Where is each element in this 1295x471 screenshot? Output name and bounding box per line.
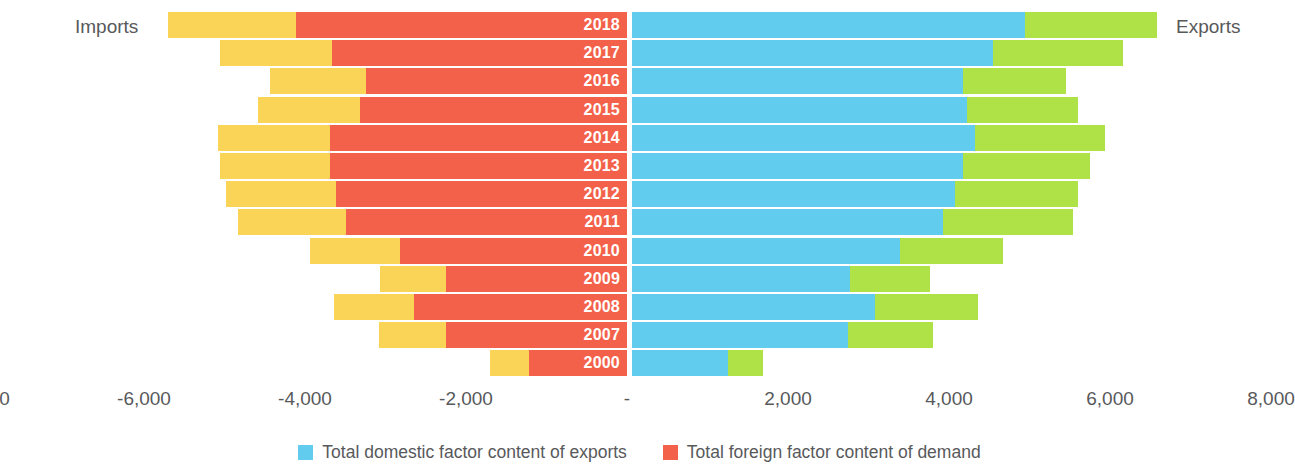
bar-segment-foreign-factor-content-of-exports — [728, 350, 763, 376]
bar-segment-domestic-factor-content-of-imports — [334, 294, 414, 320]
bar-segment-domestic-factor-content-of-imports — [379, 322, 446, 348]
bar-row-year-label: 2018 — [296, 12, 627, 38]
plot-area: 2018201720162015201420132012201120102009… — [0, 0, 1279, 382]
bar-row: 2000 — [0, 350, 1279, 376]
bar-segment-foreign-factor-content-of-exports — [967, 97, 1078, 123]
bar-segment-total-domestic-factor-content-of-exports — [632, 266, 850, 292]
bar-segment-domestic-factor-content-of-imports — [168, 12, 296, 38]
x-axis-tick-label: -2,000 — [439, 388, 493, 410]
bar-row-year-label: 2012 — [336, 181, 627, 207]
x-axis-tick-label: -4,000 — [278, 388, 332, 410]
bar-segment-total-domestic-factor-content-of-exports — [632, 12, 1025, 38]
bar-segment-total-domestic-factor-content-of-exports — [632, 209, 943, 235]
bar-segment-foreign-factor-content-of-exports — [848, 322, 933, 348]
bar-row: 2016 — [0, 68, 1279, 94]
bar-row-year-label: 2010 — [400, 238, 627, 264]
bar-segment-domestic-factor-content-of-imports — [490, 350, 529, 376]
bar-row: 2017 — [0, 40, 1279, 66]
bar-segment-domestic-factor-content-of-imports — [310, 238, 400, 264]
x-axis-tick-label: -8,000 — [0, 388, 10, 410]
bar-segment-total-domestic-factor-content-of-exports — [632, 153, 963, 179]
bar-row: 2011 — [0, 209, 1279, 235]
x-axis: -8,000-6,000-4,000-2,000-2,0004,0006,000… — [0, 388, 1279, 422]
bar-segment-total-domestic-factor-content-of-exports — [632, 181, 955, 207]
legend-label: Total domestic factor content of exports — [322, 442, 626, 463]
bar-segment-domestic-factor-content-of-imports — [270, 68, 366, 94]
bar-segment-total-domestic-factor-content-of-exports — [632, 40, 993, 66]
bar-segment-foreign-factor-content-of-exports — [943, 209, 1073, 235]
bar-row-year-label: 2013 — [330, 153, 627, 179]
x-axis-tick-label: -6,000 — [117, 388, 171, 410]
x-axis-tick-label: 2,000 — [764, 388, 812, 410]
bar-segment-total-domestic-factor-content-of-exports — [632, 97, 967, 123]
bar-row-year-label: 2008 — [414, 294, 627, 320]
bar-row: 2010 — [0, 238, 1279, 264]
bar-segment-total-domestic-factor-content-of-exports — [632, 294, 875, 320]
bar-segment-total-domestic-factor-content-of-exports — [632, 238, 900, 264]
bar-row-year-label: 2015 — [360, 97, 627, 123]
legend-label: Total foreign factor content of demand — [687, 442, 981, 463]
bar-segment-total-domestic-factor-content-of-exports — [632, 322, 848, 348]
bar-segment-foreign-factor-content-of-exports — [975, 125, 1105, 151]
bar-row-year-label: 2000 — [529, 350, 627, 376]
bar-row: 2008 — [0, 294, 1279, 320]
bar-segment-foreign-factor-content-of-exports — [850, 266, 930, 292]
legend-swatch-icon — [298, 445, 313, 460]
bar-segment-total-domestic-factor-content-of-exports — [632, 125, 975, 151]
bar-segment-domestic-factor-content-of-imports — [380, 266, 446, 292]
legend-item: Total domestic factor content of exports — [298, 442, 626, 463]
bar-segment-foreign-factor-content-of-exports — [900, 238, 1003, 264]
bar-segment-domestic-factor-content-of-imports — [220, 153, 330, 179]
bar-segment-foreign-factor-content-of-exports — [875, 294, 978, 320]
bar-segment-domestic-factor-content-of-imports — [226, 181, 336, 207]
bar-segment-total-domestic-factor-content-of-exports — [632, 68, 963, 94]
bar-row: 2014 — [0, 125, 1279, 151]
x-axis-tick-label: 8,000 — [1247, 388, 1295, 410]
bar-segment-domestic-factor-content-of-imports — [238, 209, 346, 235]
bar-row-year-label: 2017 — [332, 40, 627, 66]
x-axis-tick-label: 4,000 — [925, 388, 973, 410]
bar-segment-domestic-factor-content-of-imports — [258, 97, 360, 123]
bar-row-year-label: 2016 — [366, 68, 627, 94]
bar-segment-foreign-factor-content-of-exports — [1025, 12, 1157, 38]
legend-item: Total foreign factor content of demand — [663, 442, 981, 463]
bar-row-year-label: 2009 — [446, 266, 627, 292]
bar-row-year-label: 2011 — [346, 209, 627, 235]
chart-legend: Total domestic factor content of exports… — [0, 438, 1279, 466]
bar-row-year-label: 2007 — [446, 322, 627, 348]
x-axis-tick-label: 6,000 — [1086, 388, 1134, 410]
bar-segment-foreign-factor-content-of-exports — [955, 181, 1078, 207]
bar-row: 2009 — [0, 266, 1279, 292]
bar-segment-domestic-factor-content-of-imports — [220, 40, 332, 66]
bar-segment-domestic-factor-content-of-imports — [218, 125, 330, 151]
bar-segment-foreign-factor-content-of-exports — [963, 153, 1090, 179]
bar-row: 2007 — [0, 322, 1279, 348]
bar-segment-total-domestic-factor-content-of-exports — [632, 350, 728, 376]
bar-row: 2015 — [0, 97, 1279, 123]
x-axis-tick-label: - — [624, 388, 630, 410]
bar-row-year-label: 2014 — [330, 125, 627, 151]
legend-swatch-icon — [663, 445, 678, 460]
bar-segment-foreign-factor-content-of-exports — [963, 68, 1066, 94]
bar-row: 2018 — [0, 12, 1279, 38]
bar-row: 2013 — [0, 153, 1279, 179]
bar-segment-foreign-factor-content-of-exports — [993, 40, 1123, 66]
bar-row: 2012 — [0, 181, 1279, 207]
